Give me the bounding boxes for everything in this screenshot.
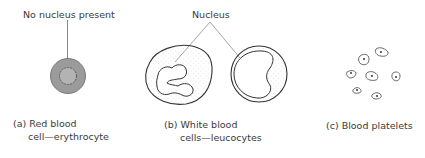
platelet <box>359 54 369 64</box>
white-caption-line2: cells—leucocytes <box>180 132 262 144</box>
nucleus-label: Nucleus <box>192 9 230 21</box>
platelet <box>366 72 378 81</box>
platelet <box>375 48 388 57</box>
red-caption-line1: (a) Red blood <box>13 118 77 130</box>
no-nucleus-label: No nucleus present <box>23 9 115 21</box>
platelets <box>347 48 400 99</box>
white-blood-cell-round <box>231 46 287 102</box>
platelet <box>372 93 382 99</box>
platelets-caption: (c) Blood platelets <box>326 120 413 132</box>
platelet <box>392 72 400 81</box>
rbc-center <box>60 68 77 85</box>
white-caption-line1: (b) White blood <box>164 119 237 131</box>
red-caption-line2: cell—erythrocyte <box>28 131 109 143</box>
platelet <box>353 88 361 94</box>
red-blood-cell <box>51 20 86 94</box>
white-blood-cell-lobed <box>146 45 212 104</box>
platelet <box>347 71 356 78</box>
